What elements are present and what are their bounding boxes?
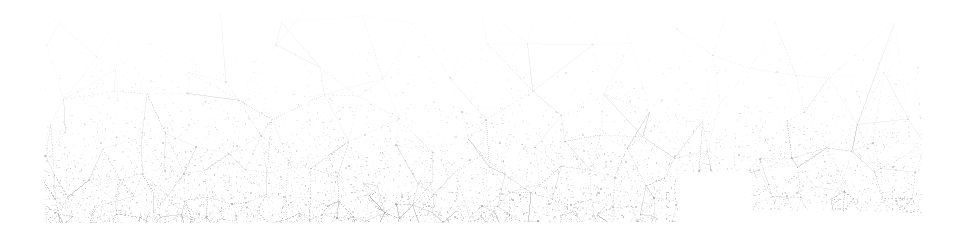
bottom-rectangular-notch: [678, 172, 750, 223]
mesh-image-canvas: [0, 0, 959, 242]
mesh-content-group: [0, 0, 959, 242]
top-fade-overlay: [0, 0, 959, 242]
mesh-network-graphic: [0, 0, 959, 242]
